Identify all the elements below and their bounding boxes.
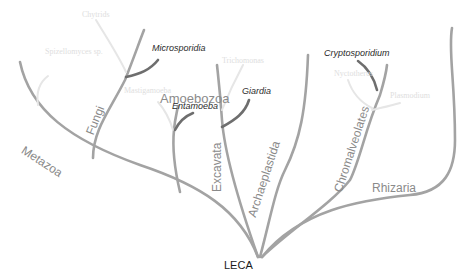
taxon-label-chytrids: Chytrids (82, 11, 110, 19)
branch-chromalveolates (262, 65, 387, 257)
taxon-label-spizellomyces: Spizellomyces sp. (45, 48, 103, 56)
taxon-label-cryptosporidium: Cryptosporidium (324, 49, 390, 58)
taxon-label-trichomonas: Trichomonas (222, 57, 264, 65)
taxon-label-giardia: Giardia (242, 87, 271, 96)
group-label-rhizaria: Rhizaria (372, 182, 416, 194)
branch-mastigamoeba (158, 102, 173, 130)
taxon-label-microsporidia: Microsporidia (152, 44, 206, 53)
branch-spizellomyces (37, 76, 48, 105)
group-label-excavata: Excavata (211, 143, 223, 192)
taxon-label-plasmodium: Plasmodium (390, 92, 430, 100)
branch-chytrids (96, 20, 126, 72)
branch-entamoeba (175, 113, 193, 130)
taxon-label-nyctotherus: Nyctotherus (334, 70, 373, 78)
tree-diagram (0, 0, 466, 280)
group-label-amoebozoa: Amoebozoa (160, 92, 229, 105)
root-label-leca: LECA (224, 260, 253, 271)
